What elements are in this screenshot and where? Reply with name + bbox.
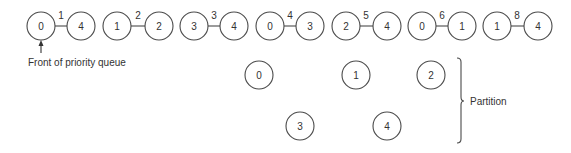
partition-node-label: 0 <box>256 70 262 81</box>
partition-node-label: 4 <box>384 121 390 132</box>
partition-annotation: Partition <box>457 58 507 143</box>
node-from-label: 1 <box>114 21 120 32</box>
partition-node-1: 1 <box>342 61 370 89</box>
partition-label: Partition <box>470 96 507 107</box>
kruskal-priority-queue-diagram: 1 0 4 2 1 2 3 3 4 4 0 3 5 2 4 <box>0 0 571 153</box>
edge-weight: 2 <box>135 10 141 21</box>
node-from-label: 0 <box>267 21 273 32</box>
partition-node-label: 2 <box>428 70 434 81</box>
node-to-label: 4 <box>78 21 84 32</box>
arrowhead-icon <box>39 40 44 46</box>
queue-edge-0: 1 0 4 <box>27 10 95 40</box>
partition-nodes: 0 1 2 3 4 <box>245 61 445 140</box>
queue-edge-1: 2 1 2 <box>103 10 173 40</box>
queue-edge-2: 3 3 4 <box>180 10 248 40</box>
node-from-label: 2 <box>343 21 349 32</box>
front-of-queue-label: Front of priority queue <box>28 57 126 68</box>
partition-node-3: 3 <box>286 112 314 140</box>
node-from-label: 3 <box>191 21 197 32</box>
node-to-label: 4 <box>535 21 541 32</box>
edge-weight: 4 <box>287 10 293 21</box>
partition-node-0: 0 <box>245 61 273 89</box>
right-brace-icon <box>457 58 464 143</box>
queue-edge-4: 5 2 4 <box>332 10 401 40</box>
edge-weight: 3 <box>211 10 217 21</box>
queue-edge-5: 6 0 1 <box>408 10 476 40</box>
node-to-label: 4 <box>384 21 390 32</box>
queue-edge-3: 4 0 3 <box>256 10 324 40</box>
node-from-label: 0 <box>38 21 44 32</box>
partition-node-4: 4 <box>373 112 401 140</box>
node-to-label: 4 <box>231 21 237 32</box>
edge-weight: 6 <box>439 10 445 21</box>
edge-weight: 8 <box>514 10 520 21</box>
edge-weight: 1 <box>58 10 64 21</box>
partition-node-label: 3 <box>297 121 303 132</box>
node-from-label: 0 <box>419 21 425 32</box>
front-of-queue-annotation: Front of priority queue <box>28 40 126 68</box>
partition-node-label: 1 <box>353 70 359 81</box>
node-to-label: 3 <box>307 21 313 32</box>
queue-edge-6: 8 1 4 <box>483 10 552 40</box>
node-from-label: 1 <box>494 21 500 32</box>
node-to-label: 1 <box>459 21 465 32</box>
partition-node-2: 2 <box>417 61 445 89</box>
edge-weight: 5 <box>363 10 369 21</box>
node-to-label: 2 <box>156 21 162 32</box>
